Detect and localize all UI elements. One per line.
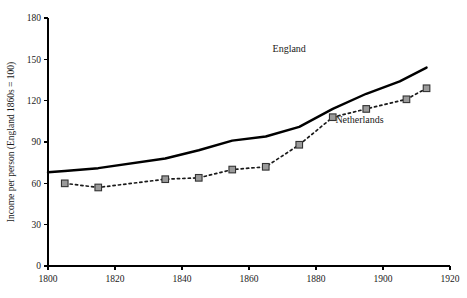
series-annotation-england: England	[273, 43, 306, 54]
marker-netherlands-point	[195, 175, 202, 182]
y-tick-label-120: 120	[27, 96, 42, 106]
x-tick-label-1920: 1920	[441, 274, 460, 284]
y-tick-label-30: 30	[32, 220, 42, 230]
chart-background	[0, 0, 467, 298]
y-axis-title: Income per person (England 1860s = 100)	[6, 62, 17, 222]
marker-netherlands-point	[262, 164, 269, 171]
y-tick-label-90: 90	[32, 137, 42, 147]
marker-netherlands-point	[363, 106, 370, 113]
x-tick-label-1860: 1860	[240, 274, 259, 284]
marker-netherlands-point	[229, 166, 236, 173]
y-tick-label-180: 180	[27, 13, 42, 23]
x-tick-label-1840: 1840	[173, 274, 192, 284]
marker-netherlands-point	[61, 180, 68, 187]
marker-netherlands-point	[95, 184, 102, 191]
marker-netherlands-point	[296, 141, 303, 148]
y-tick-label-150: 150	[27, 55, 42, 65]
y-tick-label-0: 0	[36, 261, 41, 271]
x-tick-label-1800: 1800	[39, 274, 58, 284]
marker-netherlands-point	[403, 96, 410, 103]
marker-netherlands-point	[423, 85, 430, 92]
x-tick-label-1820: 1820	[106, 274, 125, 284]
income-per-person-line-chart: 0306090120150180 18001820184018601880190…	[0, 0, 467, 298]
marker-netherlands-point	[162, 176, 169, 183]
x-tick-label-1880: 1880	[307, 274, 326, 284]
chart-container: 0306090120150180 18001820184018601880190…	[0, 0, 467, 298]
y-tick-label-60: 60	[32, 179, 42, 189]
series-annotation-netherlands: Netherlands	[335, 114, 383, 125]
x-tick-label-1900: 1900	[374, 274, 393, 284]
